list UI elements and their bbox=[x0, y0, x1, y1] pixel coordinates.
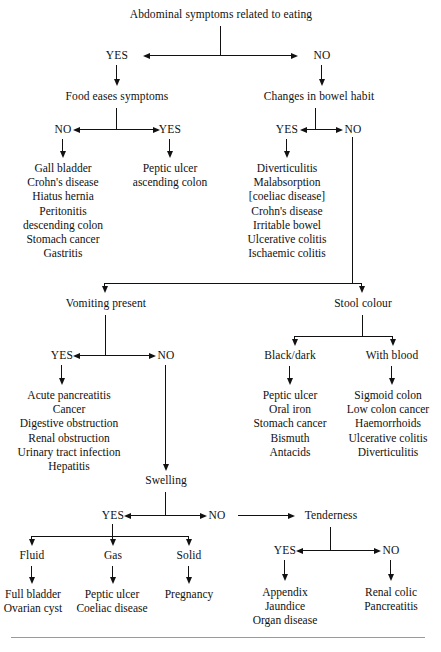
list-food-yes: Peptic ulcer ascending colon bbox=[133, 161, 207, 189]
list-item: descending colon bbox=[23, 218, 103, 232]
node-with-blood: With blood bbox=[366, 349, 419, 363]
list-item: Peptic ulcer bbox=[133, 161, 207, 175]
arrowhead-food-no-icon bbox=[73, 127, 80, 133]
label-bowel-yes: YES bbox=[276, 123, 298, 136]
edge-root-stem bbox=[220, 26, 221, 56]
arrowhead-food-yes-list-icon bbox=[167, 151, 173, 158]
edge-stool-stem bbox=[362, 315, 363, 337]
arrowhead-vomiting-no-icon bbox=[149, 353, 156, 359]
list-item: Diverticulitis bbox=[248, 161, 327, 175]
arrowhead-root-left-icon bbox=[143, 53, 150, 59]
arrowhead-root-right-icon bbox=[291, 53, 298, 59]
label-root-yes: YES bbox=[106, 49, 128, 62]
list-item: Peritonitis bbox=[23, 204, 103, 218]
edge-stool-split bbox=[294, 336, 393, 337]
label-bowel-no: NO bbox=[344, 123, 361, 136]
list-gas: Peptic ulcer Coeliac disease bbox=[76, 587, 147, 615]
node-swelling: Swelling bbox=[145, 474, 187, 488]
list-item: Ischaemic colitis bbox=[248, 246, 327, 260]
edge-food-stem bbox=[116, 108, 117, 130]
arrowhead-food-no-list-icon bbox=[60, 151, 66, 158]
arrowhead-solid-icon bbox=[186, 539, 192, 546]
node-food-eases: Food eases symptoms bbox=[66, 90, 169, 104]
node-bowel-habit: Changes in bowel habit bbox=[264, 90, 374, 104]
list-with-blood: Sigmoid colon Low colon cancer Haemorrho… bbox=[347, 388, 429, 459]
arrowhead-solid-list-icon bbox=[186, 577, 192, 584]
list-item: Irritable bowel bbox=[248, 218, 327, 232]
edge-bowel-stem bbox=[315, 108, 316, 130]
arrowhead-tenderness-icon bbox=[288, 513, 295, 519]
arrowhead-bowel-icon bbox=[319, 79, 325, 86]
list-item: Peptic ulcer bbox=[253, 388, 326, 402]
list-item: ascending colon bbox=[133, 175, 207, 189]
arrowhead-swelling-yes-icon bbox=[124, 513, 131, 519]
label-root-no: NO bbox=[313, 49, 330, 62]
list-item: Haemorrhoids bbox=[347, 416, 429, 430]
list-item: Pregnancy bbox=[165, 587, 214, 601]
node-vomiting: Vomiting present bbox=[66, 297, 146, 311]
edge-swelling-split bbox=[127, 515, 203, 516]
list-item: Crohn's disease bbox=[248, 204, 327, 218]
list-item: Crohn's disease bbox=[23, 175, 103, 189]
list-item: Ulcerative colitis bbox=[248, 232, 327, 246]
list-bowel-yes: Diverticulitis Malabsorption [coeliac di… bbox=[248, 161, 327, 260]
edge-vomiting-stem bbox=[105, 315, 106, 356]
list-item: Renal obstruction bbox=[18, 431, 121, 445]
list-item: Organ disease bbox=[253, 613, 318, 627]
arrowhead-fluid-icon bbox=[29, 539, 35, 546]
arrowhead-stool-icon bbox=[359, 286, 365, 293]
label-tenderness-yes: YES bbox=[274, 544, 296, 557]
edge-swelling-no-to-tenderness bbox=[238, 515, 290, 516]
list-item: Gastritis bbox=[23, 246, 103, 260]
edge-bowel-split bbox=[303, 129, 339, 130]
label-vomiting-yes: YES bbox=[51, 349, 73, 362]
arrowhead-gas-list-icon bbox=[110, 577, 116, 584]
list-item: Coeliac disease bbox=[76, 601, 147, 615]
arrowhead-black-dark-list-icon bbox=[287, 378, 293, 385]
list-item: Cancer bbox=[18, 402, 121, 416]
edge-root-split bbox=[146, 55, 294, 56]
edge-swelling-stem bbox=[165, 492, 166, 516]
edge-vomiting-no-long bbox=[165, 365, 166, 469]
arrowhead-food-icon bbox=[114, 79, 120, 86]
list-item: Digestive obstruction bbox=[18, 416, 121, 430]
arrowhead-fluid-list-icon bbox=[29, 577, 35, 584]
list-black-dark: Peptic ulcer Oral iron Stomach cancer Bi… bbox=[253, 388, 326, 459]
arrowhead-swelling-no-icon bbox=[200, 513, 207, 519]
list-item: Pancreatitis bbox=[364, 599, 418, 613]
list-item: Diverticulitis bbox=[347, 445, 429, 459]
arrowhead-tenderness-no-icon bbox=[374, 548, 381, 554]
list-food-no: Gall bladder Crohn's disease Hiatus hern… bbox=[23, 161, 103, 260]
flowchart-page: Abdominal symptoms related to eating YES… bbox=[0, 0, 441, 652]
arrowhead-with-blood-list-icon bbox=[389, 378, 395, 385]
label-food-yes: YES bbox=[159, 123, 181, 136]
arrowhead-tenderness-yes-icon bbox=[296, 548, 303, 554]
edge-three-way-split bbox=[31, 536, 189, 537]
label-vomiting-no: NO bbox=[157, 349, 174, 362]
label-swelling-yes: YES bbox=[102, 509, 124, 522]
list-item: Stomach cancer bbox=[253, 416, 326, 430]
list-item: Jaundice bbox=[253, 599, 318, 613]
list-item: Malabsorption bbox=[248, 175, 327, 189]
bottom-divider bbox=[11, 637, 425, 638]
arrowhead-gas-icon bbox=[110, 539, 116, 546]
label-tenderness-no: NO bbox=[382, 544, 399, 557]
arrowhead-vomiting-yes-list-icon bbox=[59, 378, 65, 385]
list-item: Peptic ulcer bbox=[76, 587, 147, 601]
list-item: Oral iron bbox=[253, 402, 326, 416]
list-item: Renal colic bbox=[364, 585, 418, 599]
arrowhead-vomiting-icon bbox=[102, 286, 108, 293]
list-item: Urinary tract infection bbox=[18, 445, 121, 459]
node-fluid: Fluid bbox=[20, 549, 45, 563]
node-solid: Solid bbox=[177, 549, 202, 563]
list-item: Bismuth bbox=[253, 431, 326, 445]
list-item: Antacids bbox=[253, 445, 326, 459]
arrowhead-bowel-yes-icon bbox=[300, 127, 307, 133]
list-item: Gall bladder bbox=[23, 161, 103, 175]
list-solid: Pregnancy bbox=[165, 587, 214, 601]
list-vomiting-yes: Acute pancreatitis Cancer Digestive obst… bbox=[18, 388, 121, 473]
list-item: Hiatus hernia bbox=[23, 189, 103, 203]
node-black-dark: Black/dark bbox=[264, 349, 315, 363]
label-food-no: NO bbox=[54, 123, 71, 136]
arrowhead-tenderness-yes-list-icon bbox=[282, 574, 288, 581]
